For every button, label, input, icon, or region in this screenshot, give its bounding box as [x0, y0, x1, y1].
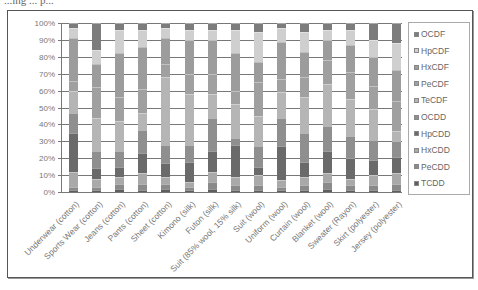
bar-4 [161, 23, 170, 192]
bar-segment-tecdf [231, 104, 240, 138]
bar-segment-hxcdf [92, 64, 101, 88]
bar-segment-hxcdf [392, 70, 401, 100]
bar-segment-ocdf [185, 23, 194, 30]
legend-swatch-icon [414, 115, 419, 120]
bar-segment-hxcdd [138, 173, 147, 183]
bar-segment-hxcdd [277, 180, 286, 187]
bar-segment-ocdf [92, 23, 101, 50]
bar-segment-hxcdd [300, 177, 309, 185]
legend-item-pecdf: PeCDF [414, 79, 449, 89]
bar-segment-tecdf [346, 99, 355, 136]
bar-segment-tecdf [277, 92, 286, 117]
bar-segment-hxcdd [392, 173, 401, 183]
bar-1 [92, 23, 101, 192]
y-tick-mark [58, 124, 62, 125]
bar-segment-ocdf [323, 23, 332, 30]
bar-0 [69, 23, 78, 192]
bar-segment-hpcdf [138, 30, 147, 47]
y-tick-label: 100% [25, 19, 55, 28]
y-tick-mark [58, 91, 62, 92]
bar-segment-hpcdd [392, 157, 401, 174]
bar-segment-hxcdf [254, 62, 263, 82]
bar-segment-hpcdd [277, 146, 286, 180]
y-tick-mark [58, 192, 62, 193]
bar-8 [254, 23, 263, 192]
bar-segment-tecdf [92, 118, 101, 152]
bar-segment-hxcdf [138, 47, 147, 89]
bar-segment-ocdf [115, 23, 124, 30]
legend: OCDFHpCDFHxCDFPeCDFTeCDFOCDDHpCDDHxCDDPe… [408, 22, 470, 195]
bar-segment-hpcdd [254, 167, 263, 175]
legend-swatch-icon [414, 148, 419, 153]
bar-segment-pecdf [346, 72, 355, 99]
bar-segment-pecdf [161, 64, 170, 78]
bar-segment-ocdd [92, 151, 101, 168]
y-tick-mark [58, 57, 62, 58]
y-tick-label: 40% [25, 120, 55, 129]
y-tick-mark [58, 158, 62, 159]
legend-item-tcdd: TCDD [414, 178, 445, 188]
bar-segment-hxcdf [323, 40, 332, 60]
bar-segment-tecdf [115, 121, 124, 151]
bar-segment-tcdd [369, 190, 378, 192]
legend-swatch-icon [414, 131, 419, 136]
bar-segment-hpcdf [300, 32, 309, 52]
legend-item-hxcdf: HxCDF [414, 62, 449, 72]
bar-segment-ocdf [231, 23, 240, 30]
bar-segment-ocdf [138, 23, 147, 30]
y-tick-mark [58, 23, 62, 24]
bar-13 [369, 23, 378, 192]
bar-segment-pecdd [138, 184, 147, 191]
bar-segment-hxcdf [185, 40, 194, 74]
bar-segment-tcdd [231, 190, 240, 192]
bar-segment-hxcdd [369, 175, 378, 185]
bar-segment-tcdd [392, 190, 401, 192]
bar-segment-hpcdf [115, 30, 124, 54]
bar-segment-pecdf [369, 86, 378, 110]
bar-segment-hpcdf [392, 43, 401, 70]
y-tick-label: 70% [25, 69, 55, 78]
bar-segment-tecdf [300, 97, 309, 132]
bar-segment-pecdf [300, 77, 309, 97]
legend-swatch-icon [414, 32, 419, 37]
legend-label: HpCDD [421, 129, 450, 139]
bar-segment-hxcdd [208, 172, 217, 182]
legend-item-hxcdd: HxCDD [414, 145, 450, 155]
y-tick-label: 90% [25, 35, 55, 44]
bar-9 [277, 23, 286, 192]
bar-segment-pecdd [323, 182, 332, 189]
y-tick-label: 30% [25, 137, 55, 146]
bar-segment-hxcdd [323, 173, 332, 181]
bar-14 [392, 23, 401, 192]
cropped-caption-fragment: ...ing ... p... [4, 0, 54, 6]
bar-segment-hxcdf [277, 42, 286, 79]
bar-segment-hpcdf [185, 30, 194, 40]
bar-segment-hxcdd [115, 177, 124, 184]
bar-segment-hxcdf [346, 45, 355, 72]
legend-item-hpcdd: HpCDD [414, 129, 450, 139]
bar-segment-tcdd [254, 190, 263, 192]
y-tick-mark [58, 141, 62, 142]
bar-7 [231, 23, 240, 192]
bar-segment-hxcdd [69, 172, 78, 187]
bar-segment-tcdd [161, 189, 170, 192]
bar-segment-pecdd [208, 182, 217, 189]
bar-segment-pecdf [277, 79, 286, 93]
y-tick-mark [58, 108, 62, 109]
bar-segment-pecdf [208, 74, 217, 94]
legend-label: HxCDD [421, 145, 450, 155]
bar-segment-ocdd [138, 130, 147, 154]
bar-segment-tcdd [115, 189, 124, 192]
bar-segment-hpcdd [161, 163, 170, 177]
bar-segment-tcdd [69, 190, 78, 192]
bar-11 [323, 23, 332, 192]
bar-segment-hpcdd [231, 145, 240, 177]
bar-segment-hpcdd [115, 167, 124, 177]
bar-segment-pecdf [392, 101, 401, 131]
bar-segment-tecdf [369, 109, 378, 139]
bar-segment-hxcdf [115, 53, 124, 97]
bar-segment-hpcdd [346, 158, 355, 178]
y-tick-label: 10% [25, 171, 55, 180]
bar-segment-hxcdd [346, 179, 355, 186]
y-tick-label: 50% [25, 103, 55, 112]
